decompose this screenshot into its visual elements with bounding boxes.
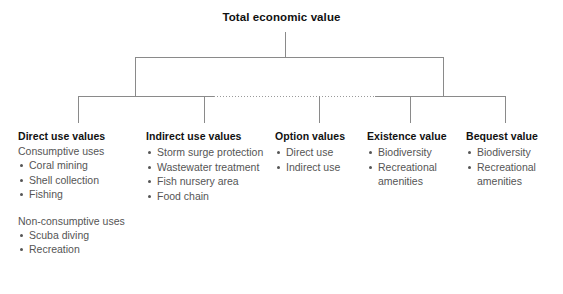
branch-arm-bequest-value	[505, 96, 506, 123]
branch-arm-existence-value	[410, 96, 411, 123]
root-node-label: Total economic value	[0, 11, 563, 23]
branch-column-indirect-use-values: Indirect use values Storm surge protecti…	[146, 130, 263, 203]
bullet-list: Direct use Indirect use	[275, 145, 345, 174]
lower-bracket-horizontal-left	[78, 96, 214, 97]
list-item: Wastewater treatment	[146, 160, 263, 175]
list-item: Food chain	[146, 189, 263, 204]
economic-value-tree-diagram: Total economic value Direct use values C…	[0, 0, 563, 294]
branch-arm-indirect-use-values	[204, 96, 205, 123]
bullet-list: Scuba diving Recreation	[18, 228, 125, 257]
list-item: Biodiversity	[466, 145, 538, 160]
lower-bracket-horizontal-right	[375, 96, 506, 97]
bullet-list: Storm surge protection Wastewater treatm…	[146, 145, 263, 203]
list-item: Scuba diving	[18, 228, 125, 243]
list-item-continuation: amenities	[367, 174, 447, 189]
upper-bracket-right-arm	[443, 57, 444, 96]
column-heading: Option values	[275, 130, 345, 142]
bullet-list: Coral mining Shell collection Fishing	[18, 158, 125, 202]
branch-column-option-values: Option values Direct use Indirect use	[275, 130, 345, 174]
bullet-list: Biodiversity Recreational amenities	[466, 145, 538, 189]
column-heading: Bequest value	[466, 130, 538, 142]
branch-column-direct-use-values: Direct use values Consumptive uses Coral…	[18, 130, 125, 257]
list-item: Direct use	[275, 145, 345, 160]
branch-arm-option-values	[319, 96, 320, 123]
branch-arm-direct-use-values	[78, 96, 79, 123]
column-heading: Existence value	[367, 130, 447, 142]
bullet-list: Biodiversity Recreational amenities	[367, 145, 447, 189]
group-spacer	[18, 202, 125, 215]
list-item: Biodiversity	[367, 145, 447, 160]
group-label: Consumptive uses	[18, 145, 125, 157]
list-item: Recreation	[18, 242, 125, 257]
upper-bracket-left-arm	[135, 57, 136, 96]
list-item: Shell collection	[18, 173, 125, 188]
trunk-connector	[285, 32, 286, 58]
column-heading: Direct use values	[18, 130, 125, 142]
list-item: Indirect use	[275, 160, 345, 175]
branch-column-existence-value: Existence value Biodiversity Recreationa…	[367, 130, 447, 189]
group-consumptive-uses: Consumptive uses Coral mining Shell coll…	[18, 145, 125, 202]
list-item: Recreational	[466, 160, 538, 175]
group-non-consumptive-uses: Non-consumptive uses Scuba diving Recrea…	[18, 215, 125, 257]
upper-bracket-horizontal	[135, 57, 444, 58]
list-item: Storm surge protection	[146, 145, 263, 160]
list-item: Coral mining	[18, 158, 125, 173]
branch-column-bequest-value: Bequest value Biodiversity Recreational …	[466, 130, 538, 189]
group-label: Non-consumptive uses	[18, 215, 125, 227]
list-item-continuation: amenities	[466, 174, 538, 189]
list-item: Fish nursery area	[146, 174, 263, 189]
list-item: Fishing	[18, 187, 125, 202]
lower-bracket-horizontal-dotted	[214, 96, 375, 97]
column-heading: Indirect use values	[146, 130, 263, 142]
list-item: Recreational	[367, 160, 447, 175]
